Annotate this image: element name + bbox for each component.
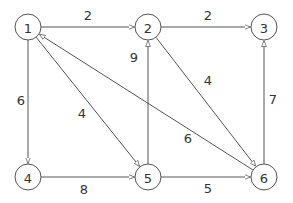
edge-weight-2-3: 2 [204,8,212,23]
node-1: 1 [15,14,41,40]
node-label: 1 [24,21,32,36]
node-label: 2 [144,21,152,36]
edge-weight-1-2: 2 [84,8,92,23]
node-6: 6 [251,164,277,190]
edge-weight-1-5: 4 [78,106,86,121]
edge-weight-1-4: 6 [17,93,25,108]
node-5: 5 [135,164,161,190]
graph-diagram: 2264946785 123456 [0,0,293,203]
edge-weight-2-6: 4 [204,73,212,88]
edge-weight-6-3: 7 [269,92,277,107]
node-label: 5 [144,171,152,186]
node-label: 3 [260,21,268,36]
edge-weight-5-6: 5 [204,181,212,196]
node-3: 3 [251,14,277,40]
edge-1-to-5 [36,37,139,166]
edge-weight-4-5: 8 [80,182,88,197]
edge-2-to-6 [156,37,256,166]
node-2: 2 [135,14,161,40]
edge-weight-5-2: 9 [130,50,138,65]
edges-layer [28,27,264,177]
node-4: 4 [15,164,41,190]
node-label: 6 [260,171,268,186]
node-label: 4 [24,171,32,186]
edge-6-to-1 [39,34,253,170]
edge-weight-6-1: 6 [184,131,192,146]
